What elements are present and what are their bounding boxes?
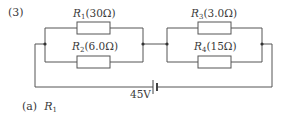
resistor-r3-label: R3(3.0Ω) <box>191 7 237 21</box>
battery-icon <box>153 80 157 94</box>
problem-number: (3) <box>8 6 24 19</box>
junction-dot <box>260 42 263 45</box>
resistor-r4 <box>198 56 231 68</box>
resistor-r2 <box>77 56 110 68</box>
junction-dot <box>43 42 46 45</box>
resistor-r1 <box>77 22 110 34</box>
battery-voltage-label: 45V <box>130 88 151 100</box>
junction-dot <box>141 42 144 45</box>
junction-dot <box>165 42 168 45</box>
resistor-r3 <box>198 22 231 34</box>
resistor-r4-label: R4(15Ω) <box>194 40 237 54</box>
resistor-r1-label: R1(30Ω) <box>73 7 116 21</box>
resistor-r2-label: R2(6.0Ω) <box>72 40 118 54</box>
part-label: (a) R1 <box>22 100 57 114</box>
